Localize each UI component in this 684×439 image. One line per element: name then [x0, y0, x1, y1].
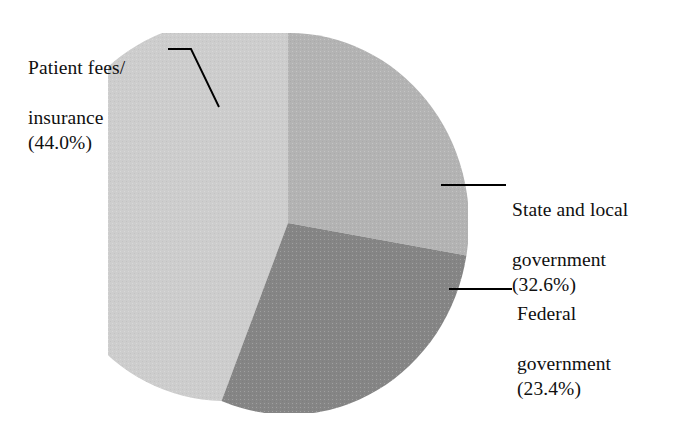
slice-label-patient-fees: Patient fees/ insurance (44.0%)	[28, 30, 188, 180]
slice-label-state-local-line1: State and local	[512, 199, 628, 220]
pie-slice-state-local-texture	[288, 33, 468, 256]
slice-label-federal-line2: government	[517, 353, 611, 374]
slice-label-federal-percent: (23.4%)	[517, 376, 677, 401]
slice-label-patient-fees-line2: insurance	[28, 107, 104, 128]
slice-label-federal: Federal government (23.4%)	[517, 276, 677, 426]
slice-label-patient-fees-line1: Patient fees/	[28, 57, 125, 78]
slice-label-patient-fees-percent: (44.0%)	[28, 130, 188, 155]
slice-label-state-local-line2: government	[512, 249, 606, 270]
slice-label-federal-line1: Federal	[517, 303, 576, 324]
pie-chart-figure: Patient fees/ insurance (44.0%) State an…	[0, 0, 684, 439]
